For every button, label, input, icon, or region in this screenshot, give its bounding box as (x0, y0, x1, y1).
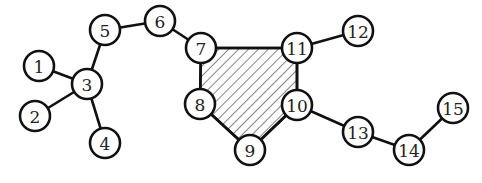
node-5: 5 (90, 15, 120, 45)
node-9: 9 (235, 135, 265, 165)
node-label: 8 (195, 95, 206, 115)
node-7: 7 (186, 33, 216, 63)
node-label: 5 (100, 21, 111, 41)
node-8: 8 (185, 89, 215, 119)
node-12: 12 (343, 16, 373, 46)
node-label: 9 (245, 141, 256, 161)
node-label: 2 (30, 107, 41, 127)
node-label: 10 (286, 96, 308, 116)
node-3: 3 (72, 69, 102, 99)
node-13: 13 (343, 117, 373, 147)
node-10: 10 (282, 90, 312, 120)
node-label: 12 (347, 22, 369, 42)
node-label: 14 (398, 141, 420, 161)
node-label: 6 (155, 12, 166, 32)
node-4: 4 (90, 128, 120, 158)
node-1: 1 (24, 51, 54, 81)
node-label: 15 (442, 99, 464, 119)
node-label: 13 (347, 123, 369, 143)
node-11: 11 (282, 33, 312, 63)
node-15: 15 (438, 93, 468, 123)
node-label: 4 (100, 134, 111, 154)
node-2: 2 (20, 101, 50, 131)
node-label: 3 (82, 75, 93, 95)
graph-diagram: 123456789101112131415 (0, 0, 482, 183)
node-label: 7 (196, 39, 207, 59)
node-6: 6 (145, 6, 175, 36)
node-label: 11 (286, 39, 308, 59)
node-label: 1 (34, 57, 45, 77)
node-14: 14 (394, 135, 424, 165)
